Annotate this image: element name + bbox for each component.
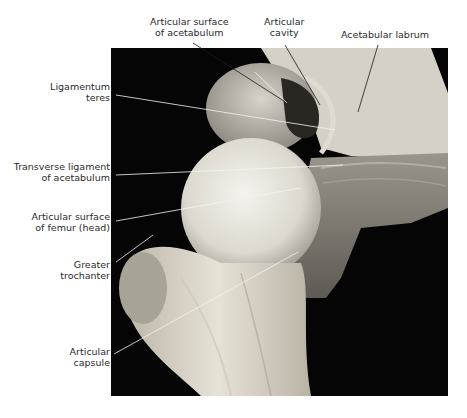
label-line: of acetabulum bbox=[150, 27, 229, 38]
label-line: Transverse ligament bbox=[14, 161, 110, 172]
label-line: Articular surface bbox=[150, 16, 229, 27]
label-transverse-ligament: Transverse ligament of acetabulum bbox=[14, 161, 110, 183]
label-line: Acetabular labrum bbox=[341, 29, 429, 40]
label-articular-surface-femur: Articular surface of femur (head) bbox=[31, 211, 110, 233]
label-line: Articular bbox=[70, 346, 110, 357]
label-line: of acetabulum bbox=[14, 172, 110, 183]
greater-trochanter-region bbox=[119, 252, 167, 324]
label-line: capsule bbox=[70, 357, 110, 368]
label-articular-capsule: Articular capsule bbox=[70, 346, 110, 368]
label-line: teres bbox=[50, 92, 110, 103]
label-line: cavity bbox=[264, 27, 304, 38]
hip-joint-photo bbox=[111, 48, 448, 396]
label-line: Articular surface bbox=[31, 211, 110, 222]
label-line: Articular bbox=[264, 16, 304, 27]
label-articular-cavity: Articular cavity bbox=[264, 16, 304, 38]
label-line: Ligamentum bbox=[50, 81, 110, 92]
label-ligamentum-teres: Ligamentum teres bbox=[50, 81, 110, 103]
label-acetabular-labrum: Acetabular labrum bbox=[341, 29, 429, 40]
label-line: of femur (head) bbox=[31, 222, 110, 233]
label-greater-trochanter: Greater trochanter bbox=[60, 259, 110, 281]
label-line: trochanter bbox=[60, 270, 110, 281]
label-line: Greater bbox=[60, 259, 110, 270]
label-articular-surface-acetabulum: Articular surface of acetabulum bbox=[150, 16, 229, 38]
